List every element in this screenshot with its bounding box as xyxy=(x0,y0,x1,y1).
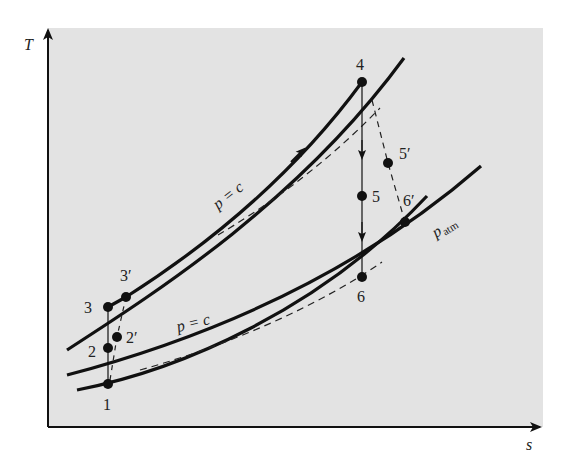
point-6 xyxy=(357,272,367,282)
point-3p-label: 3′ xyxy=(120,267,132,284)
point-5-label: 5 xyxy=(372,188,380,205)
point-3 xyxy=(103,302,113,312)
point-6p xyxy=(400,217,410,227)
point-5 xyxy=(357,191,367,201)
point-3-label: 3 xyxy=(84,299,92,316)
point-3p xyxy=(121,292,131,302)
point-5p xyxy=(383,158,393,168)
point-5p-label: 5′ xyxy=(399,145,411,162)
s-axis-label: s xyxy=(526,436,532,453)
point-2p xyxy=(112,332,122,342)
point-2-label: 2 xyxy=(88,343,96,360)
t-axis-label: T xyxy=(24,36,34,53)
point-6p-label: 6′ xyxy=(403,192,415,209)
plot-panel xyxy=(48,28,543,427)
point-6-label: 6 xyxy=(357,288,365,305)
point-1 xyxy=(103,379,113,389)
point-2p-label: 2′ xyxy=(126,329,138,346)
point-2 xyxy=(103,343,113,353)
point-4-label: 4 xyxy=(356,56,364,73)
point-4 xyxy=(357,77,367,87)
ts-diagram: T s 1 2 2′ 3 3′ 4 5 5′ 6 6′ p = c p = c … xyxy=(0,0,568,471)
point-1-label: 1 xyxy=(103,396,111,413)
